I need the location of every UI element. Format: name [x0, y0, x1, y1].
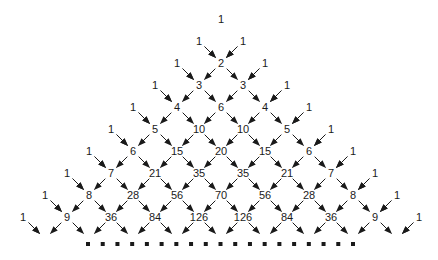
arrow — [249, 135, 260, 146]
arrow — [117, 135, 128, 146]
arrow — [205, 47, 216, 58]
arrow — [161, 157, 172, 168]
continuation-dot — [174, 242, 178, 246]
continuation-dot — [219, 242, 223, 246]
triangle-entry: 9 — [372, 212, 378, 223]
triangle-entry: 1 — [196, 36, 202, 47]
triangle-entry: 1 — [64, 168, 70, 179]
arrow — [95, 179, 106, 190]
arrow — [403, 223, 414, 234]
arrow — [271, 179, 282, 190]
arrow — [271, 113, 282, 124]
triangle-entry: 1 — [108, 124, 114, 135]
triangle-entry: 15 — [171, 146, 183, 157]
arrow — [183, 157, 194, 168]
arrow — [117, 223, 128, 234]
continuation-dot — [130, 242, 134, 246]
triangle-entry: 8 — [350, 190, 356, 201]
arrow — [227, 91, 238, 102]
arrow — [183, 179, 194, 190]
continuation-dot — [292, 242, 296, 246]
arrow — [293, 201, 304, 212]
arrow — [271, 157, 282, 168]
arrow — [205, 135, 216, 146]
arrow — [139, 135, 150, 146]
triangle-entry: 1 — [86, 146, 92, 157]
triangle-entry: 28 — [303, 190, 315, 201]
arrow — [95, 157, 106, 168]
triangle-entry: 1 — [174, 58, 180, 69]
arrow — [139, 157, 150, 168]
triangle-entry: 35 — [237, 168, 249, 179]
arrow — [139, 179, 150, 190]
continuation-dot — [204, 242, 208, 246]
arrow — [227, 69, 238, 80]
triangle-entry: 1 — [284, 80, 290, 91]
arrow — [51, 223, 62, 234]
arrow — [139, 223, 150, 234]
arrow — [337, 179, 348, 190]
arrow — [315, 179, 326, 190]
continuation-dot — [351, 242, 355, 246]
arrow — [161, 91, 172, 102]
triangle-entry: 56 — [259, 190, 271, 201]
arrow — [205, 113, 216, 124]
arrow — [315, 223, 326, 234]
arrow — [161, 223, 172, 234]
arrow — [73, 179, 84, 190]
triangle-entry: 5 — [284, 124, 290, 135]
arrow — [293, 135, 304, 146]
arrow — [293, 223, 304, 234]
triangle-entry: 1 — [328, 124, 334, 135]
arrow — [117, 179, 128, 190]
arrow — [183, 223, 194, 234]
triangle-entry: 10 — [237, 124, 249, 135]
arrow — [117, 201, 128, 212]
triangle-entry: 20 — [215, 146, 227, 157]
arrow — [205, 91, 216, 102]
arrow — [293, 179, 304, 190]
arrow — [315, 201, 326, 212]
arrow — [161, 113, 172, 124]
arrow — [249, 223, 260, 234]
triangle-entry: 9 — [64, 212, 70, 223]
arrow — [337, 201, 348, 212]
arrow — [359, 179, 370, 190]
arrow — [381, 201, 392, 212]
arrow — [227, 113, 238, 124]
continuation-dot — [277, 242, 281, 246]
arrow — [337, 157, 348, 168]
arrow — [227, 47, 238, 58]
arrow — [227, 157, 238, 168]
triangle-entry: 1 — [416, 212, 422, 223]
arrow — [161, 201, 172, 212]
triangle-entry: 1 — [394, 190, 400, 201]
arrow — [293, 113, 304, 124]
triangle-entry: 1 — [240, 36, 246, 47]
arrow — [95, 223, 106, 234]
arrow — [293, 157, 304, 168]
arrow — [381, 223, 392, 234]
continuation-dot — [322, 242, 326, 246]
arrow — [271, 223, 282, 234]
arrow — [271, 201, 282, 212]
arrow — [29, 223, 40, 234]
triangle-entry: 15 — [259, 146, 271, 157]
triangle-entry: 1 — [372, 168, 378, 179]
arrow — [205, 157, 216, 168]
continuation-dot — [115, 242, 119, 246]
triangle-entry: 36 — [105, 212, 117, 223]
continuation-dot — [336, 242, 340, 246]
triangle-entry: 6 — [130, 146, 136, 157]
triangle-entry: 6 — [306, 146, 312, 157]
triangle-entry: 36 — [325, 212, 337, 223]
continuation-dot — [307, 242, 311, 246]
arrow — [73, 201, 84, 212]
triangle-entry: 1 — [152, 80, 158, 91]
arrow — [249, 157, 260, 168]
triangle-entry: 70 — [215, 190, 227, 201]
arrow — [183, 91, 194, 102]
triangle-entry: 1 — [306, 102, 312, 113]
continuation-dot — [101, 242, 105, 246]
triangle-entry: 1 — [218, 14, 224, 25]
